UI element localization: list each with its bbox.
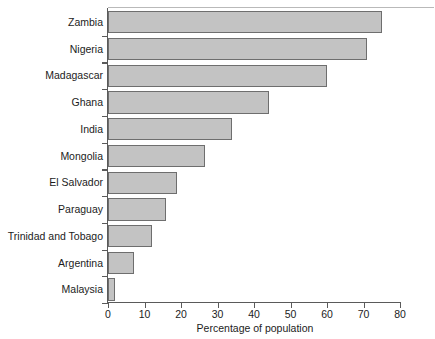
bar-row <box>108 89 400 116</box>
plot-top-rule <box>108 7 434 8</box>
category-label: Mongolia <box>60 143 103 170</box>
bar <box>108 38 367 60</box>
y-axis-tick <box>102 116 108 117</box>
y-axis-tick <box>102 276 108 277</box>
bar-row <box>108 36 400 63</box>
bar <box>108 11 382 33</box>
category-label: Paraguay <box>58 196 103 223</box>
x-axis-tick-label: 10 <box>139 308 151 320</box>
bar <box>108 225 152 247</box>
bar <box>108 278 115 300</box>
y-axis-tick <box>102 250 108 251</box>
bar-chart: ZambiaNigeriaMadagascarGhanaIndiaMongoli… <box>0 0 435 339</box>
x-axis-tick-label: 80 <box>394 308 406 320</box>
y-axis-tick <box>102 143 108 144</box>
x-axis-title: Percentage of population <box>108 322 402 334</box>
x-axis-tick-label: 20 <box>175 308 187 320</box>
x-axis-tick-label: 60 <box>321 308 333 320</box>
bar-row <box>108 169 400 196</box>
category-label: Argentina <box>58 250 103 277</box>
y-axis-tick <box>102 89 108 90</box>
bar-row <box>108 116 400 143</box>
category-label: India <box>80 116 103 143</box>
x-axis-tick-label: 70 <box>358 308 370 320</box>
y-axis-tick <box>102 36 108 37</box>
x-axis-tick-label: 50 <box>285 308 297 320</box>
category-label: Nigeria <box>70 36 103 63</box>
category-axis-labels: ZambiaNigeriaMadagascarGhanaIndiaMongoli… <box>0 9 103 303</box>
bar <box>108 91 269 113</box>
x-axis-tick-label: 0 <box>105 308 111 320</box>
bar <box>108 252 134 274</box>
category-label: Ghana <box>71 89 103 116</box>
bar-row <box>108 62 400 89</box>
bar-row <box>108 9 400 36</box>
bar <box>108 172 177 194</box>
bar-row <box>108 196 400 223</box>
y-axis-tick <box>102 169 108 170</box>
category-label: Malaysia <box>62 276 103 303</box>
category-label: El Salvador <box>49 169 103 196</box>
x-axis-tick-label: 30 <box>212 308 224 320</box>
y-axis-line <box>107 8 108 304</box>
category-label: Zambia <box>68 9 103 36</box>
bar <box>108 145 205 167</box>
x-axis-tick-label: 40 <box>248 308 260 320</box>
y-axis-tick <box>102 223 108 224</box>
bar <box>108 118 232 140</box>
bar-row <box>108 276 400 303</box>
bar <box>108 198 166 220</box>
category-label: Trinidad and Tobago <box>8 223 103 250</box>
bar-row <box>108 143 400 170</box>
bar-row <box>108 250 400 277</box>
y-axis-tick <box>102 303 108 304</box>
y-axis-tick <box>102 62 108 63</box>
plot-area <box>108 9 435 303</box>
y-axis-tick <box>102 196 108 197</box>
bar <box>108 65 327 87</box>
category-label: Madagascar <box>45 62 103 89</box>
bar-row <box>108 223 400 250</box>
